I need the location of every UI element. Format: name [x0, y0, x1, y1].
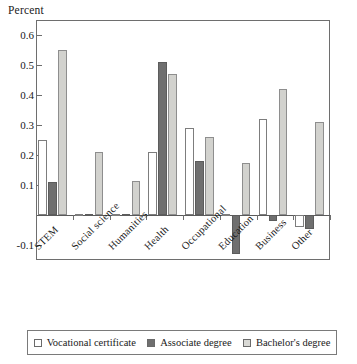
bar	[168, 74, 177, 215]
bar	[58, 50, 67, 215]
y-tick-label: -0.1	[4, 239, 34, 251]
y-tick-label: 0.6	[4, 29, 34, 41]
bar	[315, 122, 324, 215]
bar	[95, 152, 104, 215]
y-tick-label: 0.5	[4, 59, 34, 71]
legend-item-label: Bachelor's degree	[256, 337, 330, 348]
bar	[185, 128, 194, 215]
y-tick-mark	[36, 95, 42, 96]
x-tick-mark	[73, 215, 74, 220]
bar	[242, 163, 251, 216]
legend-item: Associate degree	[147, 337, 231, 348]
y-tick-mark	[36, 65, 42, 66]
bar	[75, 214, 84, 216]
legend-item: Vocational certificate	[34, 337, 136, 348]
bar	[279, 89, 288, 215]
x-tick-mark	[257, 215, 258, 220]
bar	[205, 137, 214, 215]
x-tick-mark	[36, 215, 37, 220]
legend-item-label: Vocational certificate	[47, 337, 136, 348]
y-tick-label: 0.1	[4, 179, 34, 191]
y-tick-label: 0.2	[4, 149, 34, 161]
bar	[295, 215, 304, 227]
bar	[48, 182, 57, 215]
bar	[122, 214, 131, 216]
y-tick-mark	[36, 35, 42, 36]
y-tick-label: 0.3	[4, 119, 34, 131]
bar	[85, 214, 94, 216]
legend-swatch-icon	[243, 339, 251, 347]
y-tick-label: 0.4	[4, 89, 34, 101]
x-tick-mark	[330, 215, 331, 220]
bar-chart: Percent 0.60.50.40.30.20.1-0.1 STEMSocia…	[0, 0, 357, 364]
bar	[38, 140, 47, 215]
bar	[148, 152, 157, 215]
legend-item-label: Associate degree	[160, 337, 231, 348]
y-axis-title: Percent	[8, 4, 44, 16]
bar	[158, 62, 167, 215]
legend-swatch-icon	[147, 339, 155, 347]
x-tick-mark	[183, 215, 184, 220]
legend-item: Bachelor's degree	[243, 337, 330, 348]
legend: Vocational certificateAssociate degreeBa…	[27, 330, 337, 355]
x-tick-mark	[293, 215, 294, 220]
y-tick-mark	[36, 125, 42, 126]
bar	[195, 161, 204, 215]
legend-swatch-icon	[34, 339, 42, 347]
bar	[259, 119, 268, 215]
